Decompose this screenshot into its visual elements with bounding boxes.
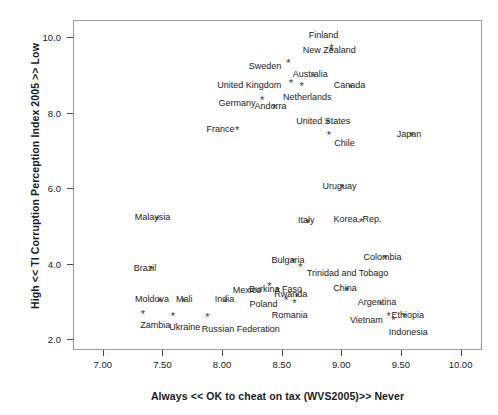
data-point bbox=[225, 305, 228, 308]
data-point-label: Uruguay bbox=[322, 181, 356, 191]
data-point-label: Ethiopia bbox=[391, 310, 424, 320]
data-point-label: Trinidad and Tobago bbox=[307, 268, 389, 278]
data-point-label: Andorra bbox=[255, 101, 287, 111]
data-point-label: Vietnam bbox=[350, 315, 383, 325]
data-point-label: Russian Federation bbox=[202, 324, 280, 334]
data-point bbox=[307, 226, 310, 229]
data-point-label: Netherlands bbox=[283, 92, 332, 102]
data-point-label: Zambia bbox=[140, 320, 170, 330]
data-point-label: Rwanda bbox=[274, 289, 307, 299]
y-tick-label: 2.0 bbox=[31, 334, 61, 345]
y-axis-title: High << TI Corruption Perception Index 2… bbox=[29, 21, 41, 331]
x-tick-mark bbox=[461, 350, 462, 356]
scatter-chart: High << TI Corruption Perception Index 2… bbox=[0, 0, 498, 415]
data-point-label: United States bbox=[296, 116, 350, 126]
data-point bbox=[237, 133, 240, 136]
data-point bbox=[183, 305, 186, 308]
data-point-label: Indonesia bbox=[389, 327, 428, 337]
data-point bbox=[380, 308, 383, 311]
data-point bbox=[313, 80, 316, 83]
data-point bbox=[151, 273, 154, 276]
data-point bbox=[385, 262, 388, 265]
y-tick-label: 6.0 bbox=[31, 183, 61, 194]
data-point-label: Japan bbox=[397, 129, 422, 139]
data-point bbox=[350, 91, 353, 94]
data-point-label: Canada bbox=[334, 80, 366, 90]
x-tick-mark bbox=[222, 350, 223, 356]
data-point-label: Germany bbox=[219, 98, 256, 108]
data-point bbox=[300, 270, 303, 273]
data-point-label: Argentina bbox=[358, 297, 397, 307]
plot-area: FinlandNew ZealandSwedenAustraliaUnited … bbox=[73, 20, 482, 350]
x-tick-label: 10.00 bbox=[449, 359, 473, 370]
data-point bbox=[342, 191, 345, 194]
data-point bbox=[297, 300, 300, 303]
data-point bbox=[361, 225, 364, 228]
x-tick-label: 9.50 bbox=[392, 359, 411, 370]
y-tick-label: 4.0 bbox=[31, 258, 61, 269]
data-point-label: Poland bbox=[249, 299, 277, 309]
data-point-label: Malaysia bbox=[135, 212, 171, 222]
data-point bbox=[347, 294, 350, 297]
data-point-label: Italy bbox=[298, 215, 315, 225]
x-tick-label: 9.00 bbox=[332, 359, 351, 370]
data-point-label: New Zealand bbox=[303, 45, 356, 55]
data-point-label: Colombia bbox=[363, 252, 401, 262]
x-tick-mark bbox=[103, 350, 104, 356]
data-point-label: Sweden bbox=[249, 61, 282, 71]
x-tick-mark bbox=[162, 350, 163, 356]
data-point bbox=[293, 265, 296, 268]
data-point bbox=[286, 303, 289, 306]
x-tick-mark bbox=[282, 350, 283, 356]
data-point bbox=[404, 320, 407, 323]
data-point-label: Australia bbox=[293, 69, 328, 79]
data-point-label: India bbox=[215, 294, 235, 304]
x-tick-mark bbox=[341, 350, 342, 356]
data-point bbox=[411, 139, 414, 142]
y-tick-label: 8.0 bbox=[31, 107, 61, 118]
data-point-label: Finland bbox=[309, 30, 339, 40]
y-tick-label: 10.0 bbox=[31, 32, 61, 43]
data-point-label: Ukraine bbox=[169, 322, 200, 332]
data-point-label: Moldova bbox=[135, 294, 169, 304]
data-point bbox=[274, 111, 277, 114]
data-point-label: United Kingdom bbox=[217, 80, 281, 90]
data-point bbox=[160, 305, 163, 308]
x-tick-label: 8.50 bbox=[272, 359, 291, 370]
x-tick-mark bbox=[401, 350, 402, 356]
x-tick-label: 8.00 bbox=[213, 359, 232, 370]
data-point bbox=[291, 86, 294, 89]
data-point bbox=[288, 66, 291, 69]
data-point-label: Korea, Rep. bbox=[334, 214, 382, 224]
data-point bbox=[329, 138, 332, 141]
data-point-label: China bbox=[333, 283, 357, 293]
x-axis-title: Always << OK to cheat on tax (WVS2005)>>… bbox=[73, 390, 482, 402]
data-point-label: France bbox=[207, 124, 235, 134]
x-tick-label: 7.50 bbox=[153, 359, 172, 370]
data-point-label: Chile bbox=[334, 138, 355, 148]
x-tick-label: 7.00 bbox=[94, 359, 113, 370]
data-point-label: Mali bbox=[176, 294, 193, 304]
data-point bbox=[157, 223, 160, 226]
data-point-label: Romania bbox=[272, 310, 308, 320]
data-point-label: Brazil bbox=[134, 263, 157, 273]
